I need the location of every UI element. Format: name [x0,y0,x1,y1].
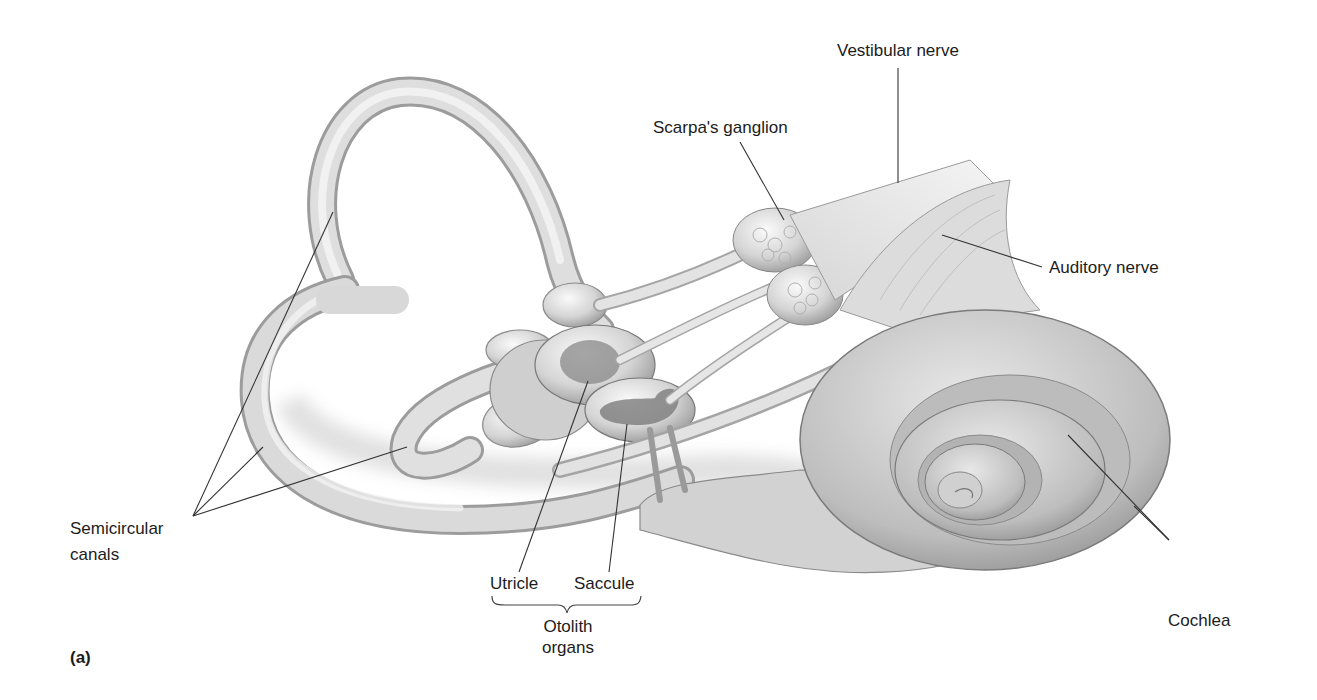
label-vestibular-nerve: Vestibular nerve [837,40,959,61]
utricle-macula [560,340,620,384]
cochlea [800,310,1170,570]
label-cochlea: Cochlea [1168,610,1230,631]
panel-label: (a) [70,647,91,668]
label-utricle: Utricle [490,573,538,594]
inner-ear-illustration [0,0,1317,700]
otolith-brace [492,596,641,613]
label-semicircular-line2: canals [70,544,164,565]
leader-semicircular-2 [193,447,263,516]
label-semicircular-canals: Semicircular canals [70,518,164,565]
label-scarpas-ganglion: Scarpa's ganglion [653,117,788,138]
label-semicircular-line1: Semicircular [70,518,164,539]
label-auditory-nerve: Auditory nerve [1049,257,1159,278]
leader-scarpas-ganglion [740,142,784,220]
vestibule [477,283,695,455]
label-saccule: Saccule [574,573,634,594]
label-otolith-organs: Otolith organs [527,616,609,658]
label-otolith-line1: Otolith [527,616,609,637]
label-otolith-line2: organs [527,637,609,658]
